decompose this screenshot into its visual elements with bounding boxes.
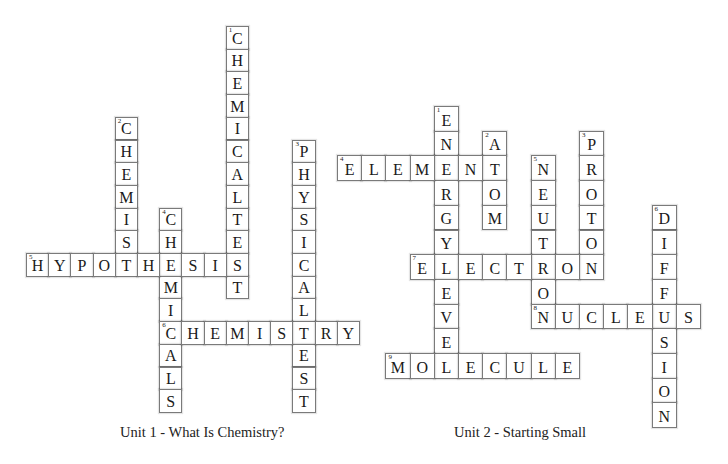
- caption-unit-1: Unit 1 - What Is Chemistry?: [120, 424, 284, 441]
- crossword-cell: T: [579, 205, 604, 231]
- crossword-cell: C: [292, 253, 315, 277]
- cell-letter: M: [119, 190, 133, 208]
- crossword-cell: H: [115, 140, 138, 164]
- crossword-cell: F: [652, 254, 677, 280]
- cell-letter: T: [490, 162, 500, 180]
- crossword-cell: L: [226, 185, 249, 209]
- crossword-cell: E: [458, 254, 483, 280]
- clue-number: 5: [534, 156, 538, 163]
- cell-letter: Y: [441, 236, 453, 254]
- crossword-cell: Y: [434, 230, 459, 256]
- cell-letter: E: [166, 258, 176, 276]
- crossword-cell: N: [652, 402, 677, 428]
- cell-letter: O: [537, 286, 549, 304]
- crossword-cell: U: [652, 304, 677, 330]
- crossword-cell: 2C: [115, 117, 138, 141]
- crossword-cell: 5N: [531, 155, 556, 181]
- clue-number: 7: [413, 255, 417, 262]
- crossword-cell: S: [115, 230, 138, 254]
- clue-number: 6: [655, 206, 659, 213]
- crossword-cell: R: [579, 155, 604, 181]
- cell-letter: S: [660, 335, 669, 353]
- cell-letter: C: [232, 144, 243, 162]
- crossword-cell: Y: [292, 185, 315, 209]
- cell-letter: C: [586, 310, 597, 328]
- clue-number: 6: [162, 322, 166, 329]
- cell-letter: E: [299, 348, 309, 366]
- cell-letter: S: [233, 258, 242, 276]
- cell-letter: E: [233, 235, 243, 253]
- crossword-cell: 9M: [385, 353, 410, 379]
- crossword-cell: I: [248, 321, 271, 345]
- cell-letter: H: [143, 258, 155, 276]
- crossword-cell: O: [482, 180, 507, 206]
- crossword-cell: 4E: [337, 155, 362, 181]
- crossword-cell: L: [434, 254, 459, 280]
- crossword-cell: C: [482, 254, 507, 280]
- crossword-cell: E: [226, 230, 249, 254]
- cell-letter: L: [442, 360, 452, 378]
- crossword-cell: E: [204, 321, 227, 345]
- crossword-cell: I: [115, 208, 138, 232]
- cell-letter: Y: [298, 190, 310, 208]
- crossword-cell: L: [603, 304, 628, 330]
- cell-letter: R: [441, 187, 452, 205]
- cell-letter: E: [442, 335, 452, 353]
- crossword-cell: 1E: [434, 106, 459, 132]
- cell-letter: O: [586, 187, 598, 205]
- cell-letter: E: [442, 113, 452, 131]
- crossword-cell: C: [226, 140, 249, 164]
- crossword-cell: P: [70, 253, 93, 277]
- crossword-cell: N: [434, 131, 459, 157]
- cell-letter: D: [658, 211, 670, 229]
- crossword-cell: 6C: [159, 321, 182, 345]
- cell-letter: I: [662, 236, 667, 254]
- crossword-cell: H: [159, 230, 182, 254]
- cell-letter: I: [213, 258, 218, 276]
- cell-letter: U: [562, 310, 574, 328]
- crossword-cell: U: [555, 304, 580, 330]
- cell-letter: I: [235, 121, 240, 139]
- crossword-cell: L: [361, 155, 386, 181]
- crossword-cell: I: [652, 353, 677, 379]
- crossword-cell: L: [434, 353, 459, 379]
- cell-letter: T: [514, 261, 524, 279]
- crossword-cell: L: [531, 353, 556, 379]
- cell-letter: M: [230, 326, 244, 344]
- cell-letter: S: [189, 258, 198, 276]
- cell-letter: T: [587, 211, 597, 229]
- cell-letter: M: [415, 162, 429, 180]
- cell-letter: H: [121, 144, 133, 162]
- cell-letter: T: [299, 394, 309, 412]
- cell-letter: T: [122, 258, 132, 276]
- crossword-cell: H: [181, 321, 204, 345]
- crossword-cell: A: [226, 162, 249, 186]
- cell-letter: M: [488, 211, 502, 229]
- cell-letter: R: [586, 162, 597, 180]
- crossword-cell: A: [159, 344, 182, 368]
- cell-letter: I: [662, 360, 667, 378]
- crossword-cell: M: [115, 185, 138, 209]
- crossword-cell: O: [410, 353, 435, 379]
- crossword-cell: O: [93, 253, 116, 277]
- cell-letter: O: [562, 261, 574, 279]
- crossword-cell: S: [159, 389, 182, 413]
- crossword-cell: 6D: [652, 205, 677, 231]
- cell-letter: I: [168, 303, 173, 321]
- cell-letter: I: [124, 212, 129, 230]
- crossword-cell: O: [531, 279, 556, 305]
- cell-letter: Y: [343, 326, 355, 344]
- crossword-cell: E: [115, 162, 138, 186]
- cell-letter: T: [233, 212, 243, 230]
- cell-letter: N: [465, 162, 477, 180]
- crossword-cell: M: [159, 276, 182, 300]
- crossword-cell: 3P: [579, 131, 604, 157]
- cell-letter: L: [538, 360, 548, 378]
- crossword-cell: M: [482, 205, 507, 231]
- cell-letter: N: [441, 137, 453, 155]
- cell-letter: P: [587, 137, 596, 155]
- cell-letter: E: [442, 162, 452, 180]
- cell-letter: N: [537, 162, 549, 180]
- crossword-cell: S: [652, 328, 677, 354]
- clue-number: 4: [162, 209, 166, 216]
